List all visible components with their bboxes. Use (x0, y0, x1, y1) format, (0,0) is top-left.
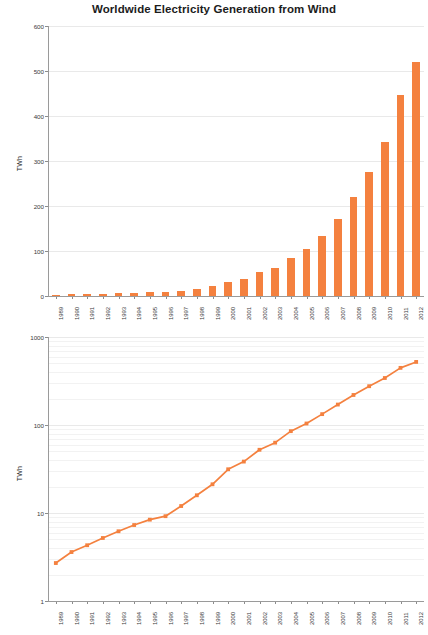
bar (318, 236, 326, 296)
x-tick-label: 1998 (199, 612, 205, 625)
x-tick-label: 1991 (89, 612, 95, 625)
bar (271, 268, 279, 296)
line-chart-panel: TWh 1101001000 1989199019911992199319941… (0, 330, 428, 635)
data-point-marker (54, 561, 58, 565)
x-tick-label: 2000 (230, 307, 236, 320)
x-tick-label: 1994 (136, 612, 142, 625)
bar (381, 142, 389, 296)
data-point-marker (195, 493, 199, 497)
x-tick-label: 2011 (403, 612, 409, 625)
bar (240, 279, 248, 296)
x-tick-label: 2008 (356, 307, 362, 320)
bar (287, 258, 295, 296)
x-tick-label: 2008 (356, 612, 362, 625)
x-tick-label: 2003 (277, 307, 283, 320)
bottom-chart-y-axis-line (48, 337, 49, 602)
data-point-marker (414, 360, 418, 364)
data-point-marker (242, 460, 246, 464)
y-tick-label: 400 (18, 113, 44, 120)
bar (209, 286, 217, 296)
data-point-marker (320, 412, 324, 416)
x-tick-label: 2009 (371, 307, 377, 320)
chart-page: Worldwide Electricity Generation from Wi… (0, 0, 428, 635)
x-tick-label: 2012 (418, 307, 424, 320)
data-point-marker (179, 504, 183, 508)
data-point-marker (273, 441, 277, 445)
x-tick-label: 2007 (340, 307, 346, 320)
bar (193, 289, 201, 296)
x-tick-label: 1999 (215, 307, 221, 320)
line-series (0, 330, 428, 635)
x-tick-label: 1995 (152, 612, 158, 625)
x-tick-label: 1994 (136, 307, 142, 320)
x-tick-label: 1992 (105, 612, 111, 625)
bar (224, 282, 232, 296)
y-tick-label: 300 (18, 158, 44, 165)
data-point-marker (367, 384, 371, 388)
data-point-marker (305, 422, 309, 426)
data-point-marker (399, 366, 403, 370)
x-tick-label: 2004 (293, 612, 299, 625)
data-point-marker (164, 514, 168, 518)
bar (365, 172, 373, 296)
x-tick-label: 1997 (183, 612, 189, 625)
data-point-marker (226, 467, 230, 471)
data-point-marker (383, 376, 387, 380)
bar (350, 197, 358, 296)
x-tick-label: 1991 (89, 307, 95, 320)
data-point-marker (70, 550, 74, 554)
x-tick-label: 2006 (324, 307, 330, 320)
data-point-marker (258, 448, 262, 452)
y-tick-label: 200 (18, 203, 44, 210)
x-tick-label: 2011 (403, 307, 409, 320)
x-tick-label: 1998 (199, 307, 205, 320)
x-tick-label: 1989 (58, 612, 64, 625)
x-tick-label: 1990 (74, 307, 80, 320)
data-point-marker (101, 536, 105, 540)
x-tick-label: 2002 (262, 307, 268, 320)
x-tick-label: 2007 (340, 612, 346, 625)
x-tick-label: 1995 (152, 307, 158, 320)
bar (397, 95, 405, 296)
x-tick-label: 2000 (230, 612, 236, 625)
y-tick-label: 600 (18, 23, 44, 30)
x-tick-label: 2005 (309, 307, 315, 320)
bar (334, 219, 342, 296)
bottom-chart-x-axis-line (48, 601, 424, 602)
x-tick-label: 2001 (246, 612, 252, 625)
x-tick-label: 1997 (183, 307, 189, 320)
x-tick-label: 1989 (58, 307, 64, 320)
top-chart-x-axis-line (48, 296, 424, 297)
data-point-marker (352, 393, 356, 397)
line-path (56, 362, 416, 563)
data-point-marker (148, 518, 152, 522)
x-tick-label: 1990 (74, 612, 80, 625)
x-tick-label: 1999 (215, 612, 221, 625)
gridline (48, 161, 424, 162)
data-point-marker (211, 482, 215, 486)
x-tick-label: 2003 (277, 612, 283, 625)
bar-chart-panel: TWh 0100200300400500600 1989199019911992… (0, 0, 428, 340)
x-tick-label: 1996 (168, 612, 174, 625)
y-tick-label: 100 (18, 248, 44, 255)
x-tick-label: 2002 (262, 612, 268, 625)
x-tick-label: 2001 (246, 307, 252, 320)
bar (412, 62, 420, 296)
gridline (48, 116, 424, 117)
x-tick-label: 2004 (293, 307, 299, 320)
x-tick-label: 1993 (121, 612, 127, 625)
y-tick-label: 0 (18, 293, 44, 300)
gridline (48, 26, 424, 27)
bar (303, 249, 311, 296)
x-tick-label: 2012 (418, 612, 424, 625)
x-tick-label: 1993 (121, 307, 127, 320)
x-tick-label: 1996 (168, 307, 174, 320)
gridline (48, 71, 424, 72)
x-tick-label: 2010 (387, 307, 393, 320)
x-tick-label: 2010 (387, 612, 393, 625)
data-point-marker (289, 429, 293, 433)
data-point-marker (132, 523, 136, 527)
data-point-marker (336, 403, 340, 407)
data-point-marker (85, 543, 89, 547)
x-tick-label: 2009 (371, 612, 377, 625)
